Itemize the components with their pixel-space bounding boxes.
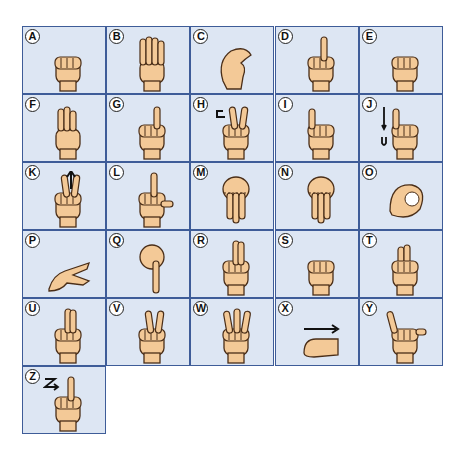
letter-cell-u: U xyxy=(22,298,106,366)
letter-cell-a: A xyxy=(22,26,106,94)
pinky-up-hand-icon xyxy=(380,103,430,161)
letter-badge: Z xyxy=(25,369,40,384)
two-fingers-down-hand-icon xyxy=(296,171,346,229)
letter-badge: M xyxy=(193,165,208,180)
thumb-between-fingers-hand-icon xyxy=(380,239,430,297)
fist-thumb-over-hand-icon xyxy=(296,239,346,297)
two-fingers-up-thumb-between-hand-icon xyxy=(43,171,93,229)
letter-cell-n: N xyxy=(275,162,359,230)
letter-badge: N xyxy=(278,165,293,180)
letter-badge: J xyxy=(362,97,377,112)
letter-badge: I xyxy=(278,97,293,112)
letter-cell-h: H xyxy=(190,94,274,162)
k-pointing-down-hand-icon xyxy=(43,239,93,297)
letter-cell-q: Q xyxy=(106,230,190,298)
letter-badge: U xyxy=(25,301,40,316)
letter-cell-v: V xyxy=(106,298,190,366)
fist-thumb-side-hand-icon xyxy=(43,35,93,93)
letter-cell-p: P xyxy=(22,230,106,298)
v-sign-hand-icon xyxy=(127,307,177,365)
letter-badge: O xyxy=(362,165,377,180)
flat-hand-fingers-up-hand-icon xyxy=(127,35,177,93)
letter-badge: L xyxy=(109,165,124,180)
l-shape-hand-icon xyxy=(127,171,177,229)
hooked-index-hand-icon xyxy=(296,307,346,365)
g-pointing-down-hand-icon xyxy=(127,239,177,297)
curved-c-shape-hand-icon xyxy=(211,35,261,93)
letter-cell-d: D xyxy=(275,26,359,94)
letter-badge: X xyxy=(278,301,293,316)
letter-badge: A xyxy=(25,29,40,44)
three-fingers-up-hand-icon xyxy=(211,307,261,365)
letter-cell-g: G xyxy=(106,94,190,162)
letter-cell-z: Z xyxy=(22,366,106,434)
letter-cell-c: C xyxy=(190,26,274,94)
letter-badge: W xyxy=(193,301,208,316)
letter-cell-b: B xyxy=(106,26,190,94)
letter-cell-t: T xyxy=(359,230,443,298)
three-fingers-down-hand-icon xyxy=(211,171,261,229)
letter-badge: F xyxy=(25,97,40,112)
letter-cell-r: R xyxy=(190,230,274,298)
letter-cell-e: E xyxy=(359,26,443,94)
letter-badge: Y xyxy=(362,301,377,316)
index-pointing-hand-icon xyxy=(127,103,177,161)
o-shape-hand-icon xyxy=(380,171,430,229)
letter-badge: C xyxy=(193,29,208,44)
letter-badge: G xyxy=(109,97,124,112)
letter-badge: V xyxy=(109,301,124,316)
letter-badge: S xyxy=(278,233,293,248)
crossed-fingers-hand-icon xyxy=(211,239,261,297)
letter-cell-m: M xyxy=(190,162,274,230)
letter-badge: P xyxy=(25,233,40,248)
index-up-circle-hand-icon xyxy=(296,35,346,93)
letter-cell-i: I xyxy=(275,94,359,162)
letter-cell-w: W xyxy=(190,298,274,366)
letter-cell-x: X xyxy=(275,298,359,366)
ok-three-fingers-up-hand-icon xyxy=(43,103,93,161)
letter-cell-k: K xyxy=(22,162,106,230)
letter-cell-o: O xyxy=(359,162,443,230)
letter-badge: E xyxy=(362,29,377,44)
letter-cell-f: F xyxy=(22,94,106,162)
alphabet-grid: ABCDEFGHIJKLMNOPQRSTUVWXYZ xyxy=(22,26,443,434)
letter-badge: R xyxy=(193,233,208,248)
letter-badge: D xyxy=(278,29,293,44)
two-fingers-together-up-hand-icon xyxy=(43,307,93,365)
letter-cell-s: S xyxy=(275,230,359,298)
letter-cell-l: L xyxy=(106,162,190,230)
thumb-pinky-out-hand-icon xyxy=(380,307,430,365)
letter-badge: T xyxy=(362,233,377,248)
letter-badge: H xyxy=(193,97,208,112)
index-up-hand-icon xyxy=(43,375,93,433)
letter-badge: K xyxy=(25,165,40,180)
letter-cell-y: Y xyxy=(359,298,443,366)
letter-badge: Q xyxy=(109,233,124,248)
fingers-curled-thumb-tucked-hand-icon xyxy=(380,35,430,93)
pinky-up-hand-icon xyxy=(296,103,346,161)
two-fingers-sideways-hand-icon xyxy=(211,103,261,161)
letter-badge: B xyxy=(109,29,124,44)
letter-cell-j: J xyxy=(359,94,443,162)
